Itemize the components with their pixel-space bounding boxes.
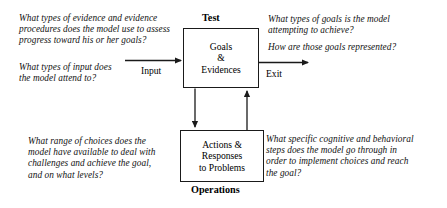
box-operations-line-1: Actions & xyxy=(202,139,242,151)
question-goals-line-2: attempting to achieve? xyxy=(268,25,396,36)
question-input-line-2: the model attend to? xyxy=(19,73,112,84)
label-input: Input xyxy=(141,65,161,76)
diagram-canvas: What types of evidence and evidence proc… xyxy=(0,0,447,208)
question-goals-line-1: What types of goals is the model xyxy=(268,14,396,25)
box-operations-line-3: to Problems xyxy=(199,162,245,174)
box-goals-evidences: Goals & Evidences xyxy=(183,28,259,88)
question-input: What types of input does the model atten… xyxy=(19,62,112,84)
box-actions-responses: Actions & Responses to Problems xyxy=(180,130,264,182)
caption-operations: Operations xyxy=(191,184,240,196)
box-test-line-2: & xyxy=(217,52,224,64)
question-steps-line-3: order to implement choices and reach xyxy=(266,156,414,167)
label-exit: Exit xyxy=(266,68,282,79)
question-steps-line-2: steps does the model go through in xyxy=(266,145,414,156)
question-evidence-line-1: What types of evidence and evidence xyxy=(19,13,170,24)
question-choices-line-1: What range of choices does the xyxy=(28,136,155,147)
question-evidence-line-3: progress toward his or her goals? xyxy=(19,35,170,46)
box-test-line-1: Goals xyxy=(210,41,232,53)
question-input-line-1: What types of input does xyxy=(19,62,112,73)
question-steps: What specific cognitive and behavioral s… xyxy=(266,134,414,179)
question-steps-line-4: the goal? xyxy=(266,168,414,179)
question-choices-line-2: model have available to deal with xyxy=(28,147,155,158)
question-evidence: What types of evidence and evidence proc… xyxy=(19,13,170,47)
question-goals: What types of goals is the model attempt… xyxy=(268,14,396,54)
box-operations-line-2: Responses xyxy=(202,150,243,162)
question-choices: What range of choices does the model hav… xyxy=(28,136,155,181)
question-steps-line-1: What specific cognitive and behavioral xyxy=(266,134,414,145)
question-goals-representation: How are those goals represented? xyxy=(268,42,396,53)
question-choices-line-3: challenges and achieve the goal, xyxy=(28,158,155,169)
question-choices-line-4: and on what levels? xyxy=(28,170,155,181)
question-evidence-line-2: procedures does the model use to assess xyxy=(19,24,170,35)
caption-test: Test xyxy=(202,12,220,24)
box-test-line-3: Evidences xyxy=(201,64,240,76)
